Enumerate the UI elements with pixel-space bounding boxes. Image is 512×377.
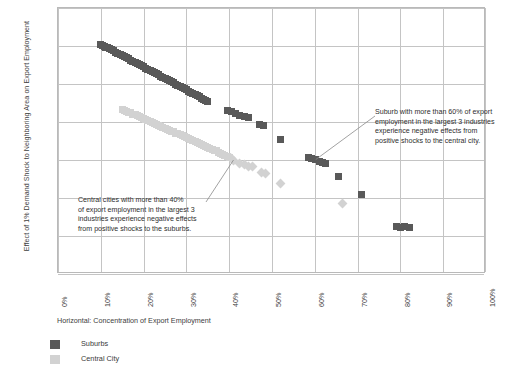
gridline-horizontal — [58, 236, 484, 237]
x-axis-tick-label: 90% — [445, 293, 454, 307]
legend-swatch-icon — [50, 355, 60, 364]
gridline-horizontal — [58, 160, 484, 161]
annotation-line: Suburb with more than 60% of export — [375, 108, 494, 118]
plot-area: Central cities with more than 40%of expo… — [57, 7, 485, 273]
gridline-vertical — [315, 8, 316, 272]
x-axis-tick-label: 20% — [146, 293, 155, 307]
gridline-horizontal — [58, 46, 484, 47]
annotation-suburb-note: Suburb with more than 60% of exportemplo… — [375, 108, 494, 146]
data-point-central-city — [261, 169, 271, 179]
legend-swatch-icon — [50, 340, 60, 349]
x-axis-tick-label: 30% — [189, 293, 198, 307]
gridline-horizontal — [58, 8, 484, 9]
annotation-line: of export employment in the largest 3 — [78, 206, 197, 216]
chart-figure: Effect of 1% Demand Shock to Neighboring… — [0, 0, 512, 377]
annotation-line: employment in the largest 3 industries — [375, 118, 494, 128]
gridline-vertical — [358, 8, 359, 272]
x-axis-tick-label: 80% — [403, 293, 412, 307]
annotation-line: experience negative effects from — [375, 127, 494, 137]
annotation-line: from positive shocks to the suburbs. — [78, 225, 197, 235]
x-axis-tick-label: 40% — [231, 293, 240, 307]
x-axis-tick-label: 70% — [360, 293, 369, 307]
gridline-horizontal — [58, 84, 484, 85]
data-point-suburbs — [322, 160, 329, 167]
data-point-central-city — [276, 179, 286, 189]
x-axis-tick-label: 0% — [60, 297, 69, 307]
x-axis-tick-label: 50% — [274, 293, 283, 307]
annotation-central-city-note: Central cities with more than 40%of expo… — [78, 196, 197, 234]
data-point-suburbs — [335, 173, 342, 180]
annotation-line: industries experience negative effects — [78, 215, 197, 225]
data-point-suburbs — [260, 122, 267, 129]
gridline-horizontal — [58, 274, 484, 275]
x-axis-tick-label: 10% — [103, 293, 112, 307]
x-axis-tick-labels: 0%10%20%30%40%50%60%70%80%90%100% — [57, 277, 485, 311]
y-axis-title: Effect of 1% Demand Shock to Neighboring… — [23, 0, 31, 281]
data-point-suburbs — [406, 224, 413, 231]
data-point-central-city — [338, 199, 348, 209]
x-axis-title: Horizontal: Concentration of Export Empl… — [57, 316, 211, 325]
data-point-suburbs — [358, 191, 365, 198]
legend-label: Central City — [81, 354, 119, 363]
annotation-line: positive shocks to the central city. — [375, 137, 494, 147]
gridline-vertical — [58, 8, 59, 272]
gridline-vertical — [272, 8, 273, 272]
data-point-suburbs — [245, 114, 252, 121]
data-point-suburbs — [277, 136, 284, 143]
x-axis-tick-label: 60% — [317, 293, 326, 307]
x-axis-tick-label: 100% — [488, 289, 497, 307]
legend-label: Suburbs — [81, 339, 108, 348]
gridline-vertical — [229, 8, 230, 272]
data-point-suburbs — [204, 98, 211, 105]
annotation-line: Central cities with more than 40% — [78, 196, 197, 206]
